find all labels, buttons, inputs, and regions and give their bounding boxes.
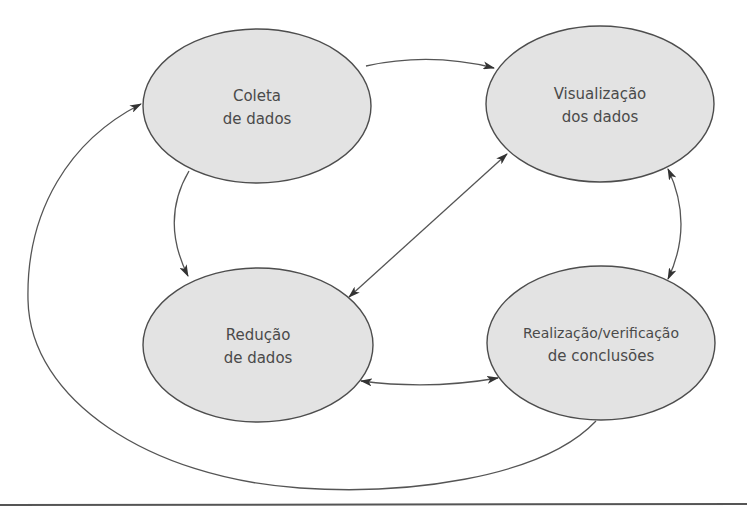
edge-coleta-to-visualizacao: [366, 59, 494, 68]
node-coleta-label-line1: Coleta: [233, 87, 281, 105]
node-visualizacao-label-line1: Visualização: [554, 85, 647, 103]
node-coleta-shape: [143, 29, 371, 183]
edge-reducao-visualizacao: [349, 154, 507, 297]
node-realizacao-label-line1: Realização/verificação: [523, 325, 679, 341]
node-reducao-label-line1: Redução: [226, 326, 291, 344]
node-visualizacao-shape: [486, 26, 714, 182]
node-visualizacao: Visualização dos dados: [486, 26, 714, 182]
node-reducao-shape: [143, 268, 373, 422]
node-coleta-label-line2: de dados: [223, 110, 292, 128]
node-visualizacao-label-line2: dos dados: [562, 108, 639, 126]
edge-visualizacao-realizacao: [668, 169, 681, 279]
node-realizacao-shape: [487, 266, 715, 420]
qualitative-analysis-diagram: Coleta de dados Visualização dos dados R…: [0, 0, 747, 511]
node-coleta: Coleta de dados: [143, 29, 371, 183]
node-reducao-label-line2: de dados: [224, 349, 293, 367]
node-realizacao-label-line2: de conclusões: [548, 347, 655, 365]
bottom-rule: [0, 504, 747, 505]
node-realizacao: Realização/verificação de conclusões: [487, 266, 715, 420]
node-reducao: Redução de dados: [143, 268, 373, 422]
edge-coleta-to-reducao: [174, 171, 189, 276]
edge-reducao-realizacao: [361, 378, 498, 385]
